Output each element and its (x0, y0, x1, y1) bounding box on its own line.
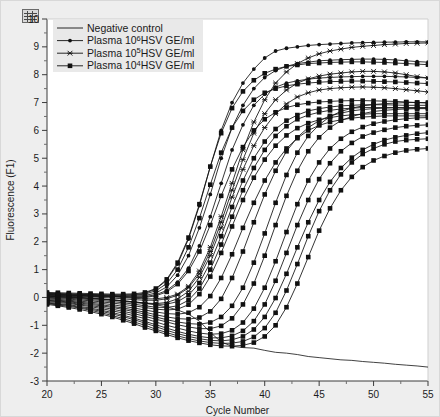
data-point (295, 126, 300, 131)
data-point (208, 215, 212, 219)
data-point (393, 75, 397, 79)
data-point (241, 302, 246, 307)
data-point (393, 139, 398, 144)
data-point (360, 148, 365, 153)
data-point (273, 160, 278, 165)
data-point (317, 80, 322, 85)
data-point (252, 340, 257, 345)
data-point (415, 116, 420, 121)
data-point (382, 108, 387, 113)
data-point (262, 231, 267, 236)
data-point (186, 269, 191, 274)
data-point (339, 42, 343, 46)
data-point (284, 133, 289, 138)
data-point (284, 84, 289, 89)
y-tick-label: 3 (33, 208, 39, 219)
data-point (284, 64, 289, 69)
data-point (164, 281, 169, 286)
data-point (263, 56, 267, 60)
data-point (350, 141, 355, 146)
data-point (328, 188, 333, 193)
data-point (230, 148, 234, 152)
data-point (284, 230, 289, 235)
data-point (339, 118, 344, 123)
y-tick-label: 0 (33, 292, 39, 303)
data-point (317, 100, 322, 105)
data-point (415, 81, 420, 86)
data-point (273, 67, 278, 72)
data-point (241, 329, 246, 334)
data-point (186, 302, 191, 307)
y-tick-label: 2 (33, 236, 39, 247)
data-point (154, 293, 159, 298)
data-point (175, 282, 180, 287)
data-point (328, 114, 333, 119)
data-point (274, 49, 278, 53)
data-point (360, 79, 365, 84)
data-point (306, 121, 311, 126)
data-point (208, 164, 213, 169)
data-point (262, 148, 267, 153)
data-point (262, 315, 267, 320)
data-point (197, 305, 202, 310)
data-point (197, 341, 202, 346)
data-point (219, 297, 224, 302)
data-point (230, 205, 235, 210)
data-point (230, 316, 235, 321)
data-point (350, 114, 355, 119)
data-point (273, 110, 278, 115)
data-point (241, 123, 245, 127)
data-point (382, 101, 387, 106)
data-point (415, 62, 420, 67)
y-tick-label: -1 (30, 320, 39, 331)
y-tick-label: 6 (33, 125, 39, 136)
data-point (339, 75, 343, 79)
data-point (154, 288, 159, 293)
data-point (175, 307, 180, 312)
data-point (176, 273, 180, 277)
data-point (317, 198, 322, 203)
data-point (219, 150, 224, 155)
data-point (273, 127, 278, 132)
data-point (284, 173, 289, 178)
data-point (360, 104, 365, 109)
data-point (393, 61, 398, 66)
data-point (404, 138, 409, 143)
data-point (371, 79, 376, 84)
data-point (197, 315, 202, 320)
data-point (208, 320, 213, 325)
data-point (273, 168, 278, 173)
data-point (360, 165, 365, 170)
data-point (317, 110, 322, 115)
data-point (219, 131, 224, 136)
data-point (371, 146, 376, 151)
x-tick-label: 55 (422, 389, 434, 400)
data-point (328, 161, 333, 166)
data-point (371, 121, 376, 126)
x-tick-label: 40 (259, 389, 271, 400)
data-point (404, 107, 409, 112)
legend-label: Plasma 106HSV GE/ml (87, 34, 194, 47)
data-point (360, 111, 365, 116)
data-point (415, 106, 420, 111)
data-point (360, 98, 365, 103)
data-point (360, 152, 365, 157)
data-point (68, 39, 72, 43)
data-point (426, 115, 431, 120)
data-point (317, 118, 322, 123)
data-point (262, 90, 267, 95)
data-point (175, 312, 180, 317)
data-point (306, 234, 311, 239)
data-point (164, 290, 169, 295)
data-point (393, 150, 398, 155)
data-point (284, 149, 289, 154)
data-point (350, 106, 355, 111)
data-point (273, 310, 278, 315)
data-point (273, 86, 278, 91)
data-point (252, 281, 257, 286)
data-point (339, 79, 344, 84)
legend-label: Negative control (87, 22, 163, 34)
data-point (328, 60, 333, 65)
data-point (241, 334, 246, 339)
data-point (252, 156, 257, 161)
